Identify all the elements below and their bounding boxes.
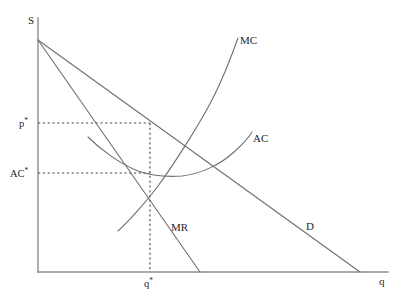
- price-tick-superscript: *: [24, 116, 28, 125]
- diagram-canvas: S q D MR MC AC p* AC* q*: [0, 0, 403, 303]
- avg-cost-tick-label: AC*: [10, 166, 29, 180]
- demand-curve: [38, 40, 360, 272]
- marginal-revenue-curve: [38, 40, 200, 272]
- quantity-tick-label: q*: [144, 276, 153, 290]
- quantity-tick-superscript: *: [149, 276, 153, 285]
- price-tick-label: p*: [19, 116, 28, 130]
- economics-diagram: S q D MR MC AC p* AC* q*: [0, 0, 403, 303]
- marginal-cost-curve: [118, 38, 238, 231]
- y-axis-label: S: [28, 14, 34, 26]
- avg-cost-tick-text: AC: [10, 168, 25, 179]
- demand-curve-label: D: [306, 220, 314, 232]
- marginal-revenue-curve-label: MR: [171, 221, 189, 233]
- average-cost-curve-label: AC: [253, 132, 268, 144]
- marginal-cost-curve-label: MC: [240, 34, 257, 46]
- avg-cost-tick-superscript: *: [25, 166, 29, 175]
- x-axis-label: q: [379, 275, 385, 287]
